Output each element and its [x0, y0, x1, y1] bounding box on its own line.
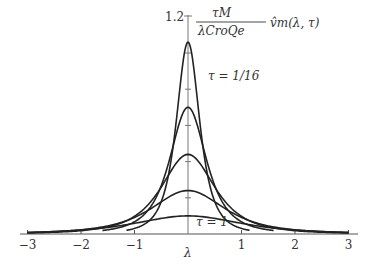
annotation-tau-1-16: τ = 1/16: [208, 69, 260, 83]
x-tick-label: −1: [126, 238, 144, 252]
ylabel-numerator: τM: [212, 6, 232, 20]
y-top-label: 1.2: [165, 10, 184, 24]
annotation-tau-1: τ = 1: [196, 215, 228, 229]
chart-canvas: −3−2−1123 1.2 τM λCroQe v̂m(λ, τ) τ = 1/…: [0, 0, 377, 272]
axes: [20, 15, 358, 234]
ylabel-denominator: λCroQe: [197, 24, 245, 38]
x-tick-label: −2: [72, 238, 90, 252]
x-tick-label: 2: [291, 238, 299, 252]
x-tick-label: 3: [345, 238, 353, 252]
y-axis-label: τM λCroQe v̂m(λ, τ): [196, 6, 320, 38]
x-tick-label: −3: [19, 238, 37, 252]
x-tick-label: 1: [238, 238, 246, 252]
ylabel-rest: v̂m(λ, τ): [270, 16, 320, 30]
x-axis-label: λ: [183, 246, 192, 260]
